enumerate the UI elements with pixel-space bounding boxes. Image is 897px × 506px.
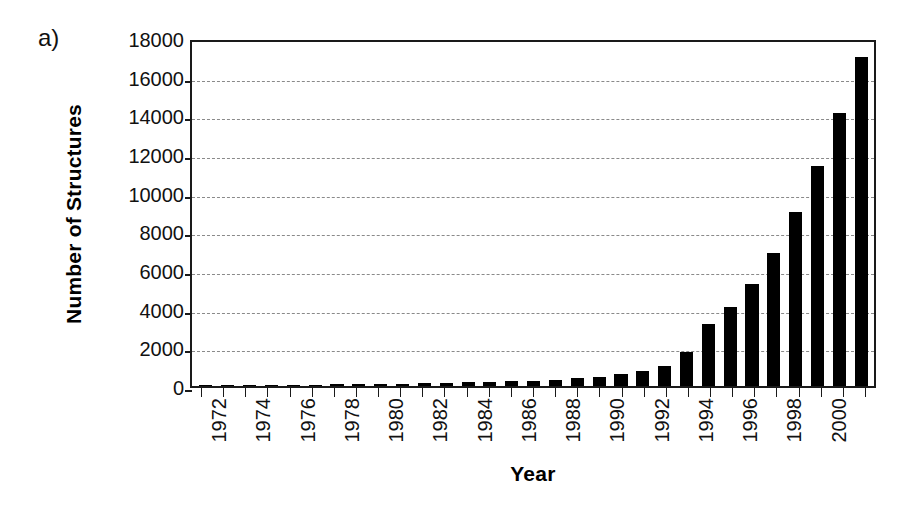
x-axis-tick-mark [666, 388, 667, 397]
y-axis-tick-mark [185, 274, 192, 276]
bar-slot [523, 42, 545, 386]
bar [549, 380, 562, 386]
x-axis-tick-mark [644, 388, 645, 397]
x-axis-tick-label: 1996 [740, 398, 760, 443]
x-axis-title: Year [190, 462, 876, 486]
figure-panel-a: a) Number of Structures 0200040006000800… [0, 0, 897, 506]
y-axis-tick-mark [185, 81, 192, 83]
bar [330, 384, 343, 386]
bar [243, 385, 256, 386]
x-axis-tick-label: 1988 [563, 398, 583, 443]
x-axis-tick-mark [312, 388, 313, 397]
bar-slot [763, 42, 785, 386]
bar [527, 381, 540, 386]
y-axis-tick-label: 10000 [128, 185, 184, 205]
bar [767, 253, 780, 386]
bar-slot [632, 42, 654, 386]
bar-slot [282, 42, 304, 386]
bar [418, 383, 431, 386]
x-axis-tick-mark [444, 388, 445, 397]
y-axis-title: Number of Structures [62, 104, 86, 324]
x-axis-tick-mark [732, 388, 733, 397]
bar-slot [697, 42, 719, 386]
x-axis-tick-mark [356, 388, 357, 397]
bar [221, 385, 234, 386]
bar [724, 307, 737, 386]
x-axis-tick-mark [799, 388, 800, 397]
bar [658, 366, 671, 386]
x-axis-tick-label: 2000 [829, 398, 849, 443]
bar [855, 57, 868, 386]
bar-slot [588, 42, 610, 386]
x-axis-tick-mark [710, 388, 711, 397]
x-axis-tick-label: 1976 [298, 398, 318, 443]
x-axis-tick-mark [577, 388, 578, 397]
bar [614, 374, 627, 386]
x-axis-tick-mark [334, 388, 335, 397]
x-axis-tick-mark [843, 388, 844, 397]
x-axis-tick-mark [378, 388, 379, 397]
bar-slot [217, 42, 239, 386]
y-axis-tick-label: 18000 [128, 30, 184, 50]
y-axis-tick-label: 14000 [128, 107, 184, 127]
bar [483, 382, 496, 386]
y-axis-tick-label: 16000 [128, 69, 184, 89]
bar-slot [348, 42, 370, 386]
bar-slot [807, 42, 829, 386]
y-axis-tick-labels: 0200040006000800010000120001400016000180… [96, 40, 184, 388]
x-axis-tick-label: 1974 [253, 398, 273, 443]
bar [199, 385, 212, 386]
x-axis-tick-label: 1992 [652, 398, 672, 443]
x-axis-tick-mark [555, 388, 556, 397]
bar [789, 212, 802, 386]
bar-slot [741, 42, 763, 386]
x-axis-tick-mark [290, 388, 291, 397]
x-axis-tick-mark [422, 388, 423, 397]
bar [265, 385, 278, 386]
y-axis-tick-mark [185, 158, 192, 160]
y-axis-tick-mark [185, 351, 192, 353]
panel-label: a) [38, 26, 59, 50]
x-axis-tick-mark [688, 388, 689, 397]
x-axis-tick-mark [599, 388, 600, 397]
bar [593, 377, 606, 386]
bar [702, 324, 715, 386]
y-axis-tick-label: 0 [173, 378, 184, 398]
bar [287, 385, 300, 386]
bar [374, 384, 387, 386]
bar-slot [479, 42, 501, 386]
y-axis-tick-label: 12000 [128, 146, 184, 166]
y-axis-tick-mark [185, 235, 192, 237]
x-axis-tick-label: 1986 [519, 398, 539, 443]
bar [833, 113, 846, 386]
bar-slot [850, 42, 872, 386]
x-axis-tick-mark [622, 388, 623, 397]
bar-slot [239, 42, 261, 386]
x-axis-tick-mark [776, 388, 777, 397]
x-axis-tick-mark [865, 388, 866, 397]
bar-slot [545, 42, 567, 386]
bar-slot [195, 42, 217, 386]
x-axis-tick-label: 1994 [696, 398, 716, 443]
bar-slot [610, 42, 632, 386]
bar-slot [304, 42, 326, 386]
x-axis-tick-label: 1982 [430, 398, 450, 443]
bar-slot [392, 42, 414, 386]
bar [352, 384, 365, 386]
x-axis-tick-label: 1972 [209, 398, 229, 443]
bar-slot [435, 42, 457, 386]
x-axis-tick-mark [245, 388, 246, 397]
bar-slot [719, 42, 741, 386]
bar-slot [326, 42, 348, 386]
bar [505, 381, 518, 386]
x-axis-tick-mark [201, 388, 202, 397]
x-axis-tick-mark [533, 388, 534, 397]
x-axis-tick-label: 1984 [475, 398, 495, 443]
bar [309, 385, 322, 386]
y-axis-tick-mark [185, 313, 192, 315]
bar-slot [676, 42, 698, 386]
y-axis-tick-label: 2000 [140, 339, 185, 359]
x-axis-tick-mark [267, 388, 268, 397]
x-axis-tick-mark [821, 388, 822, 397]
x-axis-tick-label: 1978 [342, 398, 362, 443]
